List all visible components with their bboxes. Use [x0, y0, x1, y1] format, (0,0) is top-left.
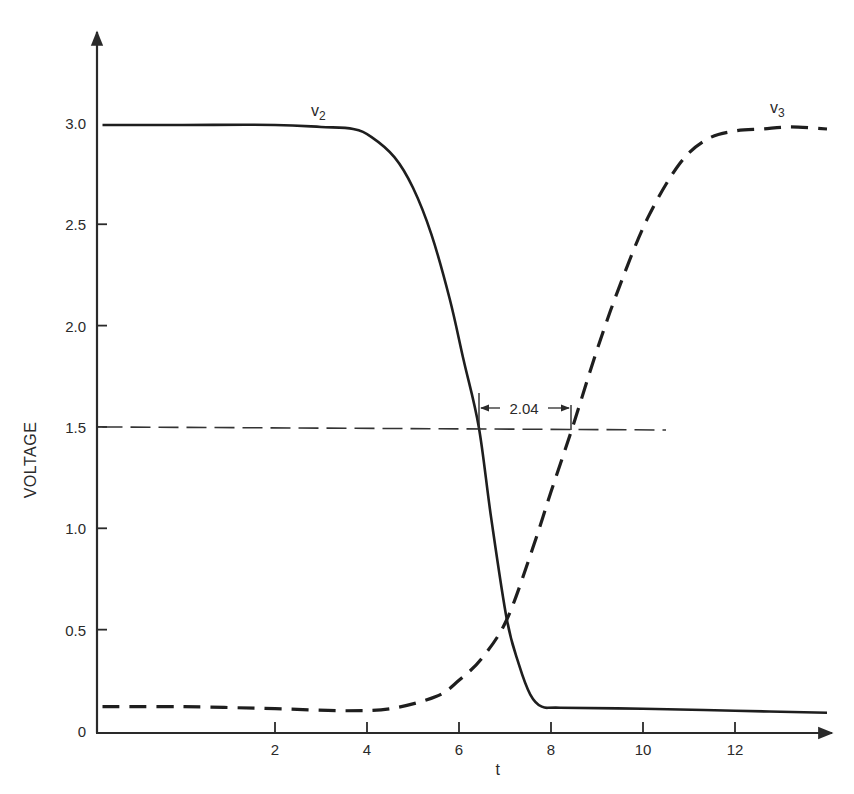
y-tick-label: 1.5: [65, 419, 86, 436]
voltage-chart: 00.51.01.52.02.53.0 24681012 VOLTAGE t v…: [0, 0, 854, 794]
annotation-label: 2.04: [509, 400, 538, 417]
series-1-5-v-reference-line: [103, 427, 667, 430]
x-axis-ticks: 24681012: [271, 722, 744, 758]
series-layer: [103, 125, 828, 713]
y-tick-label: 0.5: [65, 622, 86, 639]
y-tick-label: 3.0: [65, 115, 86, 132]
y-axis-ticks: 00.51.01.52.02.53.0: [65, 115, 107, 740]
y-tick-label: 2.5: [65, 216, 86, 233]
series-label-v3: v3: [770, 99, 785, 120]
series-label-v2: v2: [311, 102, 326, 123]
y-tick-label: 2.0: [65, 318, 86, 335]
series-v3-line: [103, 127, 828, 711]
x-tick-label: 4: [363, 741, 371, 758]
x-tick-label: 6: [455, 741, 463, 758]
y-tick-label: 0: [78, 723, 86, 740]
delay-annotation: 2.04: [479, 393, 571, 430]
x-tick-label: 12: [727, 741, 744, 758]
series-v2-line: [103, 125, 828, 713]
y-tick-label: 1.0: [65, 520, 86, 537]
x-tick-label: 2: [271, 741, 279, 758]
x-axis-title: t: [496, 761, 501, 778]
y-axis-title: VOLTAGE: [22, 422, 39, 499]
x-tick-label: 10: [635, 741, 652, 758]
x-tick-label: 8: [547, 741, 555, 758]
